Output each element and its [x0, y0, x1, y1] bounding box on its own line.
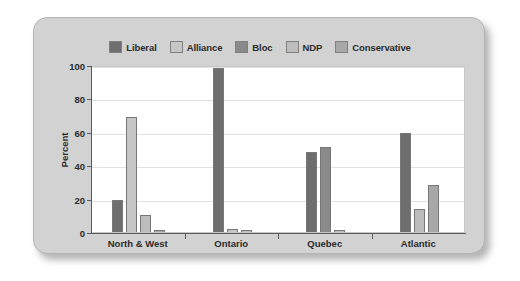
chart-screenshot: LiberalAllianceBlocNDPConservative Perce… — [0, 0, 520, 281]
y-tick-label: 60 — [74, 127, 85, 138]
category-separator-tick — [278, 234, 279, 239]
category-separator-tick — [185, 234, 186, 239]
x-category-label: North & West — [108, 238, 168, 249]
x-category-label: Ontario — [214, 238, 248, 249]
y-tick-mark — [87, 233, 91, 234]
bar-alliance — [126, 117, 137, 232]
bar-ndp — [334, 230, 345, 232]
y-tick-mark — [87, 200, 91, 201]
bar-liberal — [213, 68, 224, 232]
category-separator-tick — [372, 234, 373, 239]
legend-swatch-icon — [109, 41, 122, 53]
y-tick-mark — [87, 166, 91, 167]
legend-swatch-icon — [335, 41, 348, 53]
legend-item-ndp: NDP — [286, 41, 323, 53]
legend-label: Alliance — [187, 42, 223, 53]
y-tick-label: 0 — [80, 228, 85, 239]
bar-conservative — [154, 230, 165, 232]
y-tick-label: 100 — [69, 61, 85, 72]
y-tick-label: 80 — [74, 94, 85, 105]
y-tick-mark — [87, 133, 91, 134]
bar-ndp — [140, 215, 151, 232]
bar-bloc — [320, 147, 331, 232]
y-axis-title: Percent — [59, 132, 70, 167]
legend-item-liberal: Liberal — [109, 41, 156, 53]
bar-group — [279, 67, 373, 232]
bar-group — [186, 67, 280, 232]
bar-ndp — [241, 230, 252, 232]
y-tick-label: 20 — [74, 194, 85, 205]
chart-legend: LiberalAllianceBlocNDPConservative — [34, 41, 486, 53]
legend-label: Conservative — [352, 42, 410, 53]
x-category-label: Quebec — [307, 238, 342, 249]
bar-alliance — [227, 229, 238, 232]
legend-label: NDP — [303, 42, 323, 53]
bar-liberal — [400, 133, 411, 232]
y-tick-mark — [87, 99, 91, 100]
legend-item-conservative: Conservative — [335, 41, 410, 53]
bar-liberal — [306, 152, 317, 232]
legend-swatch-icon — [170, 41, 183, 53]
legend-label: Bloc — [252, 42, 272, 53]
legend-label: Liberal — [126, 42, 156, 53]
bar-conservative — [428, 185, 439, 232]
legend-swatch-icon — [286, 41, 299, 53]
y-tick-label: 40 — [74, 161, 85, 172]
bar-group — [92, 67, 186, 232]
bar-group — [373, 67, 466, 232]
chart-panel: LiberalAllianceBlocNDPConservative Perce… — [33, 17, 485, 254]
legend-item-bloc: Bloc — [235, 41, 272, 53]
x-category-label: Atlantic — [401, 238, 436, 249]
legend-swatch-icon — [235, 41, 248, 53]
y-tick-mark — [87, 66, 91, 67]
plot-area — [91, 66, 465, 233]
legend-item-alliance: Alliance — [170, 41, 223, 53]
plot-wrapper: Percent 020406080100North & WestOntarioQ… — [91, 66, 465, 233]
bar-liberal — [112, 200, 123, 232]
bar-ndp — [414, 209, 425, 232]
y-axis-line — [91, 66, 92, 234]
